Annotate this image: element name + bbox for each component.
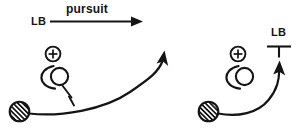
hatched-ball-icon [199,102,219,122]
hatched-ball-icon [10,102,30,122]
header-condition-name: pursuit [66,2,108,16]
diagram-canvas: LB pursuit [0,0,307,131]
target-marker-label: LB [271,26,286,38]
header-condition-label: LB [31,15,46,27]
diagram-root: LB pursuit [0,0,307,131]
